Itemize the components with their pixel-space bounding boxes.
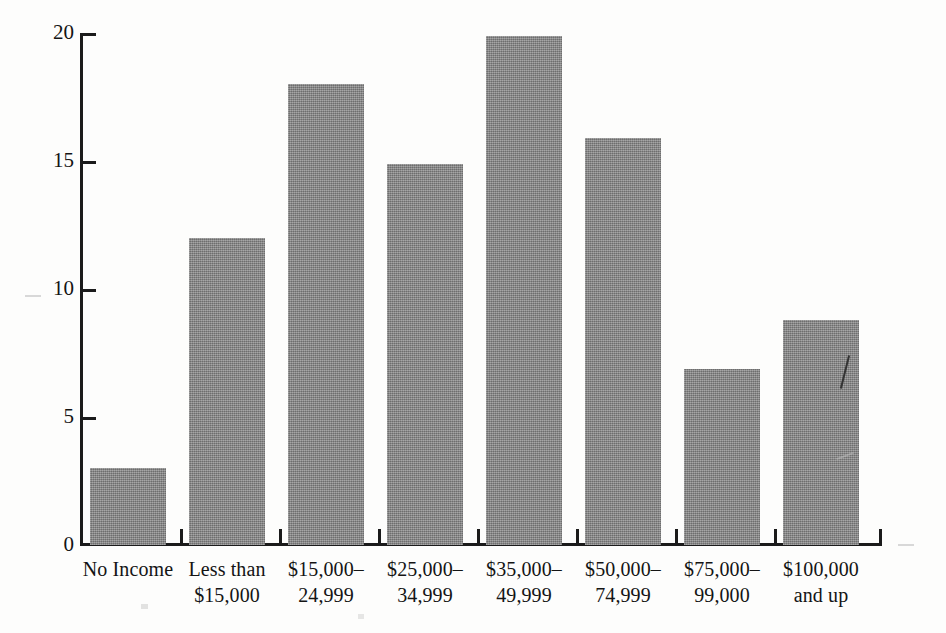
y-tick-label-0: 0 — [16, 534, 74, 555]
bar-50000-74999[interactable] — [585, 138, 661, 545]
bar-no-income[interactable] — [90, 468, 166, 545]
x-label-50000-74999-line2: 74,999 — [567, 582, 679, 608]
bar-35000-49999[interactable] — [486, 36, 562, 545]
x-tick-6 — [675, 529, 678, 545]
x-tick-3 — [378, 529, 381, 545]
bar-25000-34999[interactable] — [387, 164, 463, 545]
x-label-15000-24999-line2: 24,999 — [270, 582, 382, 608]
y-tick-label-5-wrap: 5 — [0, 406, 74, 427]
x-label-50000-74999: $50,000– 74,999 — [567, 556, 679, 608]
y-tick-label-0-wrap: 0 — [0, 534, 74, 555]
x-label-75000-99000-line2: 99,000 — [666, 582, 778, 608]
x-label-100000-and-up-line2: and up — [765, 582, 877, 608]
bar-100000-and-up[interactable] — [783, 320, 859, 545]
bar-less-than-15000[interactable] — [189, 238, 265, 545]
x-label-15000-24999-line1: $15,000– — [270, 556, 382, 582]
x-label-less-than-15000-line2: $15,000 — [171, 582, 283, 608]
x-tick-2 — [279, 529, 282, 545]
y-tick-20 — [83, 33, 96, 36]
x-tick-7 — [774, 529, 777, 545]
y-tick-label-15-wrap: 15 — [0, 150, 74, 171]
x-label-no-income: No Income — [72, 556, 184, 582]
margin-dash-artifact-right — [898, 544, 914, 546]
margin-dash-artifact-left — [25, 295, 41, 297]
x-label-15000-24999: $15,000– 24,999 — [270, 556, 382, 608]
x-label-35000-49999-line2: 49,999 — [468, 582, 580, 608]
bar-chart-figure: 20 15 10 5 0 No Income Less than $15,000… — [0, 0, 946, 633]
x-label-25000-34999-line1: $25,000– — [369, 556, 481, 582]
x-label-75000-99000: $75,000– 99,000 — [666, 556, 778, 608]
x-label-25000-34999-line2: 34,999 — [369, 582, 481, 608]
y-tick-label-20-wrap: 20 — [0, 22, 74, 43]
x-tick-4 — [477, 529, 480, 545]
speck-artifact-2 — [358, 614, 364, 619]
x-label-35000-49999-line1: $35,000– — [468, 556, 580, 582]
x-tick-1 — [180, 529, 183, 545]
y-tick-5 — [83, 417, 96, 420]
x-label-less-than-15000: Less than $15,000 — [171, 556, 283, 608]
y-tick-label-5: 5 — [16, 406, 74, 427]
x-label-100000-and-up: $100,000 and up — [765, 556, 877, 608]
y-tick-15 — [83, 161, 96, 164]
x-label-50000-74999-line1: $50,000– — [567, 556, 679, 582]
x-label-75000-99000-line1: $75,000– — [666, 556, 778, 582]
x-label-35000-49999: $35,000– 49,999 — [468, 556, 580, 608]
x-label-100000-and-up-line1: $100,000 — [765, 556, 877, 582]
x-label-25000-34999: $25,000– 34,999 — [369, 556, 481, 608]
x-axis-end-tick — [879, 529, 882, 546]
y-tick-label-20: 20 — [16, 22, 74, 43]
bar-15000-24999[interactable] — [288, 84, 364, 545]
x-label-no-income-line1: No Income — [72, 556, 184, 582]
x-tick-5 — [576, 529, 579, 545]
y-tick-label-15: 15 — [16, 150, 74, 171]
bar-75000-99000[interactable] — [684, 369, 760, 545]
y-tick-10 — [83, 289, 96, 292]
speck-artifact-1 — [141, 604, 148, 609]
x-label-less-than-15000-line1: Less than — [171, 556, 283, 582]
